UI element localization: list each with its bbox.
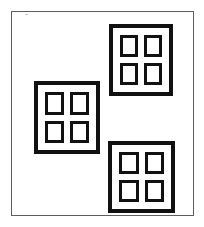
window-pane-bottom-left xyxy=(45,121,64,144)
window-pane-top-right xyxy=(144,35,162,57)
window-pane-top-right xyxy=(145,152,165,174)
drawing-canvas xyxy=(0,0,204,227)
window-figure-bottom-right xyxy=(108,141,175,213)
scan-artifact-speck xyxy=(25,14,28,15)
window-pane-top-left xyxy=(119,152,139,174)
window-pane-bottom-left xyxy=(120,63,138,85)
window-pane-bottom-right xyxy=(144,63,162,85)
window-pane-bottom-right xyxy=(145,180,165,202)
window-pane-grid xyxy=(112,145,171,209)
window-figure-middle-left xyxy=(34,81,100,154)
window-pane-top-right xyxy=(70,92,89,115)
window-pane-top-left xyxy=(45,92,64,115)
window-pane-top-left xyxy=(120,35,138,57)
window-pane-grid xyxy=(113,28,169,92)
window-pane-grid xyxy=(38,85,96,150)
window-figure-top-right xyxy=(109,24,173,96)
window-pane-bottom-right xyxy=(70,121,89,144)
window-pane-bottom-left xyxy=(119,180,139,202)
